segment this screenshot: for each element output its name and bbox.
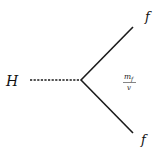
coupling-denominator: v	[127, 84, 131, 92]
higgs-label: H	[5, 73, 19, 89]
coupling-fraction: m f v	[123, 72, 136, 92]
upper-fermion-label: f	[144, 9, 152, 24]
feynman-diagram: H f f m f v	[0, 0, 163, 151]
lower-fermion-label: f	[140, 132, 148, 147]
lower-fermion-line	[81, 80, 133, 133]
coupling-numerator-subscript: f	[130, 76, 134, 83]
